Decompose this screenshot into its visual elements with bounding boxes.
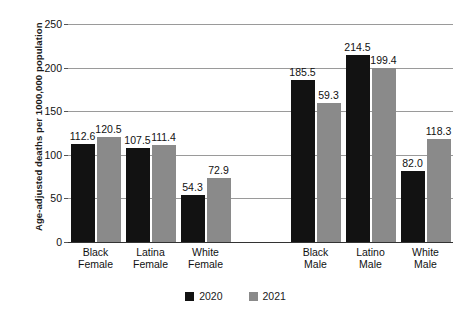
bar-group: 107.5111.4 xyxy=(123,24,178,242)
bar-2020[interactable] xyxy=(401,171,425,243)
x-category-line: Latina xyxy=(123,246,178,258)
bar-2021[interactable] xyxy=(207,178,231,242)
bar-2020[interactable] xyxy=(346,55,370,242)
bar-value-label: 112.6 xyxy=(70,131,96,142)
x-category-line: White xyxy=(178,246,233,258)
bar-column[interactable]: 118.3 xyxy=(427,24,451,242)
bar-2020[interactable] xyxy=(126,148,150,242)
legend-swatch-icon xyxy=(249,292,258,301)
bar-chart: Age-adjusted deaths per 1000,000 populat… xyxy=(0,0,471,315)
bar-2020[interactable] xyxy=(181,195,205,242)
bar-column[interactable]: 107.5 xyxy=(126,24,150,242)
bar-column[interactable]: 214.5 xyxy=(346,24,370,242)
bar-value-label: 59.3 xyxy=(318,90,338,101)
x-category-line: Black xyxy=(68,246,123,258)
bar-column[interactable]: 199.4 xyxy=(372,24,396,242)
x-category-label: LatinoMale xyxy=(343,246,398,280)
x-category-spacer xyxy=(233,246,288,280)
bar-value-label: 54.3 xyxy=(182,182,202,193)
bar-column[interactable]: 185.5 xyxy=(291,24,315,242)
group-spacer xyxy=(233,24,288,242)
bar-value-label: 82.0 xyxy=(402,158,422,169)
x-category-line: Female xyxy=(178,258,233,270)
bar-2020[interactable] xyxy=(291,80,315,242)
bar-column[interactable]: 82.0 xyxy=(401,24,425,242)
bar-value-label: 118.3 xyxy=(426,126,452,137)
bar-2021[interactable] xyxy=(152,145,176,242)
x-category-label: BlackFemale xyxy=(68,246,123,280)
bar-2021[interactable] xyxy=(372,68,396,242)
x-category-label: BlackMale xyxy=(288,246,343,280)
bar-2021[interactable] xyxy=(97,137,121,242)
bar-value-label: 72.9 xyxy=(208,165,228,176)
legend-item-2020[interactable]: 2020 xyxy=(185,290,222,302)
x-category-line: Male xyxy=(288,258,343,270)
x-category-line: Female xyxy=(123,258,178,270)
x-category-line: Male xyxy=(398,258,453,270)
y-tick-label: 0 xyxy=(22,237,62,247)
x-category-line: Female xyxy=(68,258,123,270)
bar-series-container: 112.6120.5107.5111.454.372.9185.559.3214… xyxy=(68,24,453,242)
x-category-line: White xyxy=(398,246,453,258)
bar-group: 214.5199.4 xyxy=(343,24,398,242)
y-tick-label: 250 xyxy=(22,19,62,29)
bar-column[interactable]: 54.3 xyxy=(181,24,205,242)
bar-group: 112.6120.5 xyxy=(68,24,123,242)
bar-value-label: 120.5 xyxy=(95,124,121,135)
bar-column[interactable]: 120.5 xyxy=(97,24,121,242)
x-category-label: WhiteFemale xyxy=(178,246,233,280)
bar-value-label: 199.4 xyxy=(370,55,396,66)
x-category-label: LatinaFemale xyxy=(123,246,178,280)
y-axis-title: Age-adjusted deaths per 1000,000 populat… xyxy=(33,12,45,242)
bar-group: 54.372.9 xyxy=(178,24,233,242)
bar-column[interactable]: 59.3 xyxy=(317,24,341,242)
bar-2020[interactable] xyxy=(71,144,95,242)
y-tick-label: 100 xyxy=(22,150,62,160)
legend-label: 2021 xyxy=(263,290,286,302)
bar-column[interactable]: 111.4 xyxy=(152,24,176,242)
bar-column[interactable]: 112.6 xyxy=(71,24,95,242)
bar-value-label: 111.4 xyxy=(151,132,176,143)
bar-2021[interactable] xyxy=(317,103,341,242)
bar-value-label: 107.5 xyxy=(124,135,150,146)
bar-group: 185.559.3 xyxy=(288,24,343,242)
y-tick-label: 200 xyxy=(22,63,62,73)
x-category-line: Latino xyxy=(343,246,398,258)
plot-area: 112.6120.5107.5111.454.372.9185.559.3214… xyxy=(68,24,453,242)
y-tick-label: 50 xyxy=(22,193,62,203)
x-category-line: Black xyxy=(288,246,343,258)
legend-swatch-icon xyxy=(185,292,194,301)
x-axis-category-labels: BlackFemaleLatinaFemaleWhiteFemaleBlackM… xyxy=(68,246,453,280)
bar-value-label: 185.5 xyxy=(289,67,315,78)
bar-2021[interactable] xyxy=(427,139,451,242)
bar-group: 82.0118.3 xyxy=(398,24,453,242)
legend-label: 2020 xyxy=(199,290,222,302)
x-category-label: WhiteMale xyxy=(398,246,453,280)
chart-legend: 20202021 xyxy=(0,290,471,302)
bar-column[interactable]: 72.9 xyxy=(207,24,231,242)
legend-item-2021[interactable]: 2021 xyxy=(249,290,286,302)
y-tick-label: 150 xyxy=(22,106,62,116)
x-category-line: Male xyxy=(343,258,398,270)
bar-value-label: 214.5 xyxy=(344,42,370,53)
